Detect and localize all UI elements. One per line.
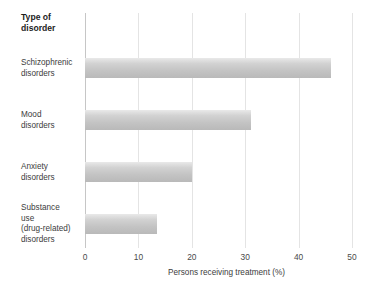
bar-row: [85, 110, 251, 130]
tick-label-10: 10: [123, 252, 153, 262]
bar: [85, 58, 331, 78]
category-label: Mood disorders: [21, 110, 85, 131]
bar-chart-figure: Type of disorder Schizophrenic disorders…: [0, 0, 374, 292]
category-axis-heading: Type of disorder: [21, 12, 83, 34]
tick-label-20: 20: [177, 252, 207, 262]
gridline-50: [352, 13, 353, 248]
gridline-30: [245, 13, 246, 248]
value-axis-title: Persons receiving treatment (%): [85, 268, 368, 277]
tick-label-30: 30: [230, 252, 260, 262]
gridline-10: [138, 13, 139, 248]
bar-row: [85, 58, 331, 78]
bar: [85, 214, 157, 234]
bar-row: [85, 214, 157, 234]
category-label: Anxiety disorders: [21, 162, 85, 183]
plot-area: [85, 13, 368, 248]
tick-label-40: 40: [284, 252, 314, 262]
tick-label-50: 50: [337, 252, 367, 262]
bar: [85, 162, 192, 182]
category-label: Schizophrenic disorders: [21, 58, 85, 79]
value-axis-spine: [85, 13, 86, 248]
tick-label-0: 0: [70, 252, 100, 262]
gridline-40: [299, 13, 300, 248]
bar-row: [85, 162, 192, 182]
gridline-20: [192, 13, 193, 248]
category-label: Substance use (drug-related) disorders: [21, 203, 85, 246]
bar: [85, 110, 251, 130]
